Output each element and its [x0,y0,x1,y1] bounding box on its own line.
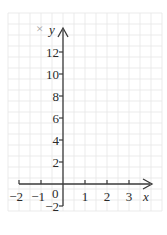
y-tick-label: 2 [53,155,60,170]
close-icon[interactable]: × [36,21,43,36]
origin-label: 0 [52,186,59,201]
y-axis-label: y [47,22,55,37]
x-tick-label: −2 [9,189,23,204]
y-tick-label: 8 [53,89,60,104]
y-tick-label: −2 [45,199,59,214]
y-tick-label: 6 [53,111,60,126]
x-tick-label: 3 [126,189,133,204]
x-tick-label: 2 [104,189,111,204]
x-tick-label: −1 [31,189,45,204]
y-tick-label: 10 [46,67,59,82]
x-tick-label: 1 [82,189,89,204]
coordinate-plane: −2−1123 −224681012 × y x 0 [0,0,167,235]
y-tick-label: 4 [53,133,60,148]
y-tick-label: 12 [46,45,59,60]
x-axis-label: x [142,189,149,204]
